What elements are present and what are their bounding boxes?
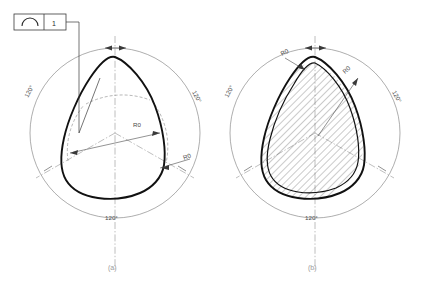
angle-tick-a-left xyxy=(44,166,52,171)
profile-of-a-line-icon xyxy=(22,18,38,26)
wall-hatch-b xyxy=(261,57,364,199)
figure-caption-a: (a) xyxy=(108,264,117,272)
angle-tick-b-right xyxy=(378,166,386,171)
angle-tick-b-left xyxy=(244,166,252,171)
feature-control-frame-box xyxy=(14,14,66,30)
technical-drawing-canvas: R0 R0 120° 120° 120° (a) xyxy=(0,0,424,292)
arrowhead-a-top-right xyxy=(119,46,126,51)
centerline-a-left xyxy=(36,133,115,178)
arrowhead-b-top-left xyxy=(305,46,312,51)
dimension-label-b-inner: R0 xyxy=(341,64,352,75)
arrowhead-b-top-right xyxy=(319,46,326,51)
angle-label-b-bottom: 120° xyxy=(305,214,318,221)
profile-outline-a xyxy=(61,57,164,199)
feature-control-frame[interactable]: 1 xyxy=(14,14,100,133)
figure-b: R0 R0 120° 120° 120° (b) xyxy=(223,36,404,272)
figure-a: R0 R0 120° 120° 120° (a) xyxy=(23,36,204,272)
angle-label-b-left: 120° xyxy=(223,83,235,98)
drawing-page: R0 R0 120° 120° 120° (a) xyxy=(0,0,424,292)
angle-label-a-left: 120° xyxy=(23,83,35,98)
arrowhead-b-inner xyxy=(352,78,358,86)
angle-label-a-right: 120° xyxy=(191,89,203,104)
dimension-label-b-wall: R0 xyxy=(279,47,290,57)
dimension-label-a-corner: R0 xyxy=(182,151,192,160)
angle-label-a-bottom: 120° xyxy=(105,214,118,221)
construction-arc-a-2 xyxy=(86,95,150,104)
dimension-label-a-major: R0 xyxy=(133,121,141,128)
angle-label-b-right: 120° xyxy=(391,89,403,104)
figure-caption-b: (b) xyxy=(308,264,317,272)
tolerance-value: 1 xyxy=(52,20,56,27)
angle-tick-a-right xyxy=(178,166,186,171)
arrowhead-a-top-left xyxy=(105,46,112,51)
